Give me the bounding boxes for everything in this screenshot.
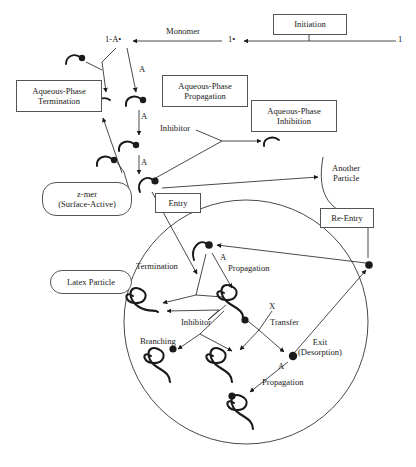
arrow-term-to-deadchain [163,295,196,303]
arrow-back-into-particle [217,245,366,263]
box-aqueous-phase-inhibition[interactable]: Aqueous-Phase Inhibition [251,100,337,132]
arrow-inhibitor-inside [167,310,219,311]
line-radical1-to-term-join [86,62,102,70]
box-aqueous-phase-propagation[interactable]: Aqueous-Phase Propagation [162,75,248,107]
label-species-1-radical: 1• [228,35,235,45]
label-species-1a-radical: 1-A• [105,35,121,45]
line-term-join-inside [196,254,206,295]
live-chain-center [217,285,243,318]
chain-bottom-dot [228,392,235,399]
label-transfer-x: X [269,302,275,312]
radical-aq-3-hook [126,97,141,106]
radical-aq-4-hook [119,142,134,151]
diagram-artwork [0,0,416,467]
arrow-transfer-left [240,330,259,350]
label-monomer-a-2: A [141,112,147,122]
line-radical5-to-termjoin [117,162,124,172]
arrow-1a-to-radical2 [127,48,136,92]
chain-lower-mid [206,348,232,382]
label-transfer: Transfer [270,318,299,328]
label-propagation-upper: Propagation [228,264,270,274]
box-initiation[interactable]: Initiation [273,14,347,35]
label-exit-desorption: Exit (Desorption) [298,338,342,358]
radical-aq-1-dot [79,55,85,61]
radical-aq-3-dot [140,97,146,103]
label-monomer-a-1: A [139,65,145,75]
label-propagation-lower: Propagation [262,378,304,388]
label-propagation-a-2: A [278,362,284,372]
label-monomer: Monomer [166,27,200,37]
arrow-1a-to-term [102,48,116,92]
live-chain-center-dot [241,316,248,323]
arrow-transfer-right [259,330,284,352]
label-species-1: 1 [398,35,402,45]
radical-aq-6-hook [139,178,153,192]
diagram-canvas: Initiation Aqueous-Phase Termination Aqu… [0,0,416,467]
radical-aq-5-hook [97,157,112,166]
radical-aq-7-hook [264,138,279,146]
radical-aq-6-dot [151,177,158,184]
label-branching: Branching [140,337,176,347]
box-re-entry[interactable]: Re-Entry [320,208,374,228]
dead-chain-left [126,288,158,312]
box-z-mer[interactable]: z-mer (Surface-Active) [42,182,132,216]
node-exit-particle [289,352,297,360]
label-another-particle: Another Particle [332,164,360,184]
label-propagation-a-1: A [220,253,226,263]
arrow-branching [178,334,200,349]
line-inhibitor-aq-stem [196,130,222,141]
chain-bottom [227,395,253,429]
branched-chain-lower-left [144,348,170,382]
box-latex-particle[interactable]: Latex Particle [50,270,132,294]
radical-aq-5-dot [111,157,117,163]
node-outside [365,261,373,269]
label-termination: Termination [136,262,178,272]
node-entry-particle [205,241,213,249]
radical-aq-1-hook [66,55,80,64]
arrow-inhibitor-fan-right [162,177,318,188]
box-entry[interactable]: Entry [155,193,201,213]
radical-aq-4-dot [133,142,139,148]
label-inhibitor-particle: Inhibitor [181,318,211,328]
line-inhibitor-fan-left [152,141,222,180]
box-aqueous-phase-termination[interactable]: Aqueous-Phase Termination [16,80,102,112]
label-monomer-a-3: A [141,158,147,168]
label-inhibitor-aqueous: Inhibitor [160,124,190,134]
particle-chain-dots [169,316,248,399]
